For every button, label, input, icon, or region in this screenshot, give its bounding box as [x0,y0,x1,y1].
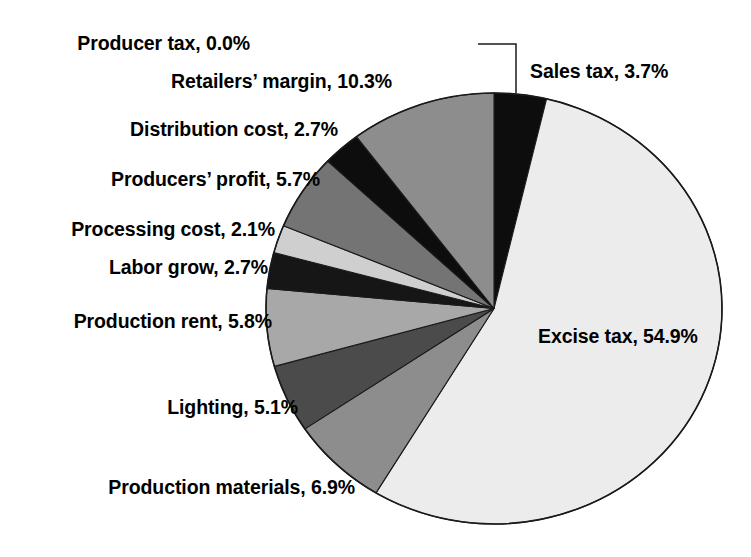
slice-label-producers-profit: Producers’ profit, 5.7% [111,170,320,190]
leader-line-group [478,44,516,93]
slice-label-production-rent: Production rent, 5.8% [74,312,272,332]
slice-label-distribution-cost: Distribution cost, 2.7% [130,120,338,140]
slice-label-excise-tax: Excise tax, 54.9% [538,327,698,347]
slice-label-labor-grow: Labor grow, 2.7% [109,258,268,278]
pie-chart-figure: Producer tax, 0.0% Sales tax, 3.7% Retai… [0,0,751,557]
slice-label-producer-tax: Producer tax, 0.0% [77,34,250,54]
slice-label-lighting: Lighting, 5.1% [167,398,298,418]
producer-tax-leader-line [478,44,516,93]
pie-slices-group [266,93,722,524]
slice-label-production-materials: Production materials, 6.9% [108,478,355,498]
slice-label-processing-cost: Processing cost, 2.1% [71,220,275,240]
slice-label-sales-tax: Sales tax, 3.7% [530,62,668,82]
slice-label-retailers-margin: Retailers’ margin, 10.3% [171,72,392,92]
